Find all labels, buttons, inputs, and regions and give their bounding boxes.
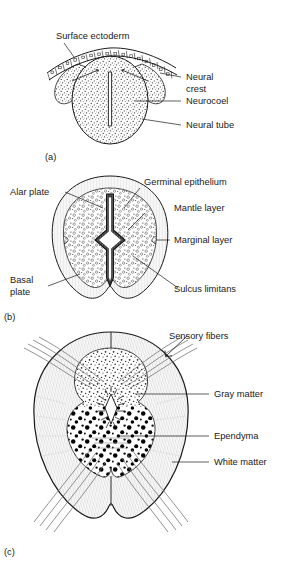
label-sensory-fibers: Sensory fibers <box>169 331 229 341</box>
label-sulcus-limitans: Sulcus limitans <box>174 284 236 294</box>
panel-a-drawing: Surface ectoderm Neural crest Neurocoel … <box>0 0 292 168</box>
label-neural-crest-line2: crest <box>186 84 207 94</box>
label-surface-ectoderm: Surface ectoderm <box>56 31 130 41</box>
label-alar-plate: Alar plate <box>10 187 49 197</box>
panel-c-caption: (c) <box>4 547 15 557</box>
panel-a: Surface ectoderm Neural crest Neurocoel … <box>0 0 292 168</box>
label-germinal-epithelium: Germinal epithelium <box>144 177 227 187</box>
neurocoel-shape <box>108 72 111 126</box>
label-white-matter: White matter <box>214 457 267 467</box>
label-marginal-layer: Marginal layer <box>174 235 232 245</box>
label-neural-tube: Neural tube <box>186 120 234 130</box>
label-basal-plate-line2: plate <box>10 287 30 297</box>
label-mantle-layer: Mantle layer <box>174 203 225 213</box>
label-gray-matter: Gray matter <box>214 389 263 399</box>
panel-b: Alar plate Basal plate Germinal epitheli… <box>0 168 292 326</box>
panel-b-drawing: Alar plate Basal plate Germinal epitheli… <box>0 168 292 326</box>
label-ependyma: Ependyma <box>214 431 259 441</box>
figure-spinal-cord-development: Surface ectoderm Neural crest Neurocoel … <box>0 0 292 563</box>
label-basal-plate-line1: Basal <box>10 275 33 285</box>
panel-c: Sensory fibers Gray matter Ependyma Whit… <box>0 326 292 563</box>
label-neural-crest-line1: Neural <box>186 72 213 82</box>
neural-tube-shape <box>72 56 148 144</box>
panel-a-caption: (a) <box>45 152 56 162</box>
panel-c-drawing: Sensory fibers Gray matter Ependyma Whit… <box>0 326 292 563</box>
label-neurocoel: Neurocoel <box>186 96 228 106</box>
panel-b-caption: (b) <box>4 312 15 322</box>
